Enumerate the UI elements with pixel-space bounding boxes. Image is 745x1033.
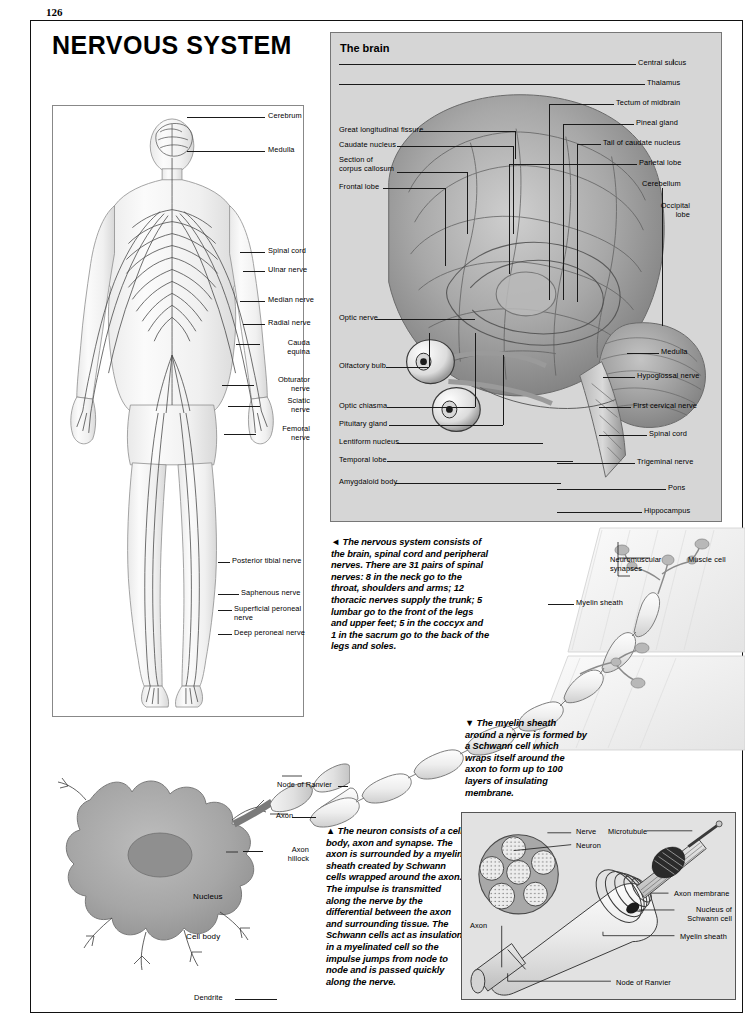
caption-myelin: ▼ The myelin sheath around a nerve is fo… xyxy=(465,718,587,799)
brain-label-parietal-lobe: Parietal lobe xyxy=(639,158,681,167)
body-label-medulla: Medulla xyxy=(268,145,295,154)
brain-label-first-cervical-nerve: First cervical nerve xyxy=(633,401,697,410)
leader-body-obturator xyxy=(222,385,254,386)
neuron-label-axon: Axon xyxy=(276,811,293,820)
brain-label-trigeminal-nerve: Trigeminal nerve xyxy=(637,457,693,466)
neuron-label-dendrite: Dendrite xyxy=(194,993,223,1002)
leader-tail-caudate xyxy=(577,144,601,145)
page-number: 126 xyxy=(46,6,63,18)
brain-label-section-of-corpus-callosum: Section of corpus callosum xyxy=(339,155,394,173)
schwann-label-neuron: Neuron xyxy=(576,841,601,850)
leader-temporal xyxy=(387,461,573,462)
body-label-spinal-cord: Spinal cord xyxy=(268,246,306,255)
leader-optic-chiasma xyxy=(387,407,475,408)
leader-olfactory-v xyxy=(429,333,430,367)
leader-body-median xyxy=(240,301,265,302)
leader-body-sciatic xyxy=(228,406,260,407)
leader-body-cauda xyxy=(236,344,260,345)
body-label-ulnar-nerve: Ulnar nerve xyxy=(268,265,307,274)
body-label-posterior-tibial-nerve: Posterior tibial nerve xyxy=(232,556,302,565)
leader-body-spinal-cord xyxy=(240,252,265,253)
leader-hippocampus xyxy=(557,512,642,513)
leader-body-medulla xyxy=(187,151,265,152)
leader-body-post-tibial xyxy=(218,562,230,563)
neuron-label-cell-body: Cell body xyxy=(186,932,220,941)
leader-caudate-v xyxy=(513,146,514,234)
leader-pineal-v xyxy=(563,124,564,300)
body-label-radial-nerve: Radial nerve xyxy=(268,318,311,327)
body-label-median-nerve: Median nerve xyxy=(268,295,314,304)
neuron-nucleus-shape xyxy=(128,833,192,877)
leader-hypoglossal xyxy=(603,377,635,378)
leader-great-fissure-v xyxy=(515,131,516,159)
leader-tail-caudate-v xyxy=(577,144,578,302)
leader-lentiform xyxy=(397,443,543,444)
leader-spinal-cord-brain xyxy=(599,435,647,436)
brain-label-optic-chiasma: Optic chiasma xyxy=(339,401,387,410)
neuron-illustration xyxy=(20,760,350,1010)
brain-label-central-sulcus: Central sulcus xyxy=(638,58,686,67)
brain-label-thalamus: Thalamus xyxy=(647,78,680,87)
schwann-label-microtubule: Microtubule xyxy=(608,827,647,836)
leader-body-deep-peroneal xyxy=(218,634,232,635)
brain-label-medulla: Medulla xyxy=(661,347,688,356)
page-title: NERVOUS SYSTEM xyxy=(52,31,292,60)
body-label-cauda-equina: Cauda equina xyxy=(262,338,310,356)
leader-medulla xyxy=(627,353,659,354)
body-label-sciatic-nerve: Sciatic nerve xyxy=(262,396,310,414)
schwann-label-axon-membrane: Axon membrane xyxy=(674,889,730,898)
schwann-label-axon: Axon xyxy=(470,921,487,930)
schwann-label-node-of-ranvier: Node of Ranvier xyxy=(616,978,671,987)
leader-parietal-v xyxy=(509,164,510,274)
leader-great-fissure xyxy=(419,131,515,132)
leader-optic-nerve xyxy=(375,319,475,320)
leader-thalamus xyxy=(339,84,645,85)
brain-label-spinal-cord: Spinal cord xyxy=(649,429,687,438)
leader-optic-chiasma-v xyxy=(475,333,476,407)
brain-label-lentiform-nucleus: Lentiform nucleus xyxy=(339,437,399,446)
brain-label-frontal-lobe: Frontal lobe xyxy=(339,182,379,191)
leader-tectum xyxy=(549,104,614,105)
leader-central-sulcus xyxy=(339,64,636,65)
leader-olfactory xyxy=(386,367,429,368)
leader-neuron-hillock xyxy=(243,851,263,852)
nm-label-muscle-cell: Muscle cell xyxy=(688,555,726,564)
brain-label-caudate-nucleus: Caudate nucleus xyxy=(339,140,396,149)
schwann-label-nerve: Nerve xyxy=(576,827,596,836)
leader-parietal xyxy=(509,164,637,165)
brain-label-hypoglossal-nerve: Hypoglossal nerve xyxy=(637,371,700,380)
neuron-label-nucleus: Nucleus xyxy=(193,892,223,901)
leader-trigeminal xyxy=(557,463,635,464)
leader-caudate xyxy=(397,146,513,147)
leader-neuron-axon xyxy=(292,817,316,818)
leader-body-sup-peroneal xyxy=(218,610,232,611)
leader-frontal-lobe-v xyxy=(445,188,446,266)
leader-nm-myelin xyxy=(548,604,574,605)
leader-neuron-dendrite xyxy=(235,999,277,1000)
leader-pons xyxy=(557,489,666,490)
neuron-label-axon-hillock: Axon hillock xyxy=(265,845,309,863)
body-label-femoral-nerve: Femoral nerve xyxy=(258,424,310,442)
schwann-label-nucleus-of-schwann-cell: Nucleus of Schwann cell xyxy=(662,905,732,923)
neuron-label-node-of-ranvier: Node of Ranvier xyxy=(277,780,332,789)
brain-label-tail-of-caudate-nucleus: Tail of caudate nucleus xyxy=(603,138,681,147)
leader-pineal xyxy=(563,124,634,125)
brain-label-tectum-of-midbrain: Tectum of midbrain xyxy=(616,98,680,107)
leader-corpus-callosum-v xyxy=(467,172,468,234)
caption-neuron: ▲ The neuron consists of a cell body, ax… xyxy=(326,826,464,988)
brain-label-cerebellum: Cerebellum xyxy=(642,179,681,188)
leader-pituitary-v xyxy=(503,355,504,425)
body-label-cerebrum: Cerebrum xyxy=(268,111,302,120)
leader-neuron-node xyxy=(338,786,348,787)
brain-label-hippocampus: Hippocampus xyxy=(644,506,690,515)
body-label-deep-peroneal-nerve: Deep peroneal nerve xyxy=(234,628,305,637)
leader-amygdaloid xyxy=(395,483,561,484)
body-label-obturator-nerve: Obturator nerve xyxy=(256,375,310,393)
leader-tectum-v xyxy=(549,104,550,300)
leader-body-ulnar xyxy=(243,271,265,272)
brain-label-pituitary-gland: Pituitary gland xyxy=(339,419,387,428)
brain-label-pons: Pons xyxy=(668,483,685,492)
leader-body-saphenous xyxy=(218,594,239,595)
schwann-cell-panel: Nerve Neuron Microtubule Axon membrane N… xyxy=(461,812,736,1000)
brain-label-great-longitudinal-fissure: Great longitudinal fissure xyxy=(339,125,423,134)
